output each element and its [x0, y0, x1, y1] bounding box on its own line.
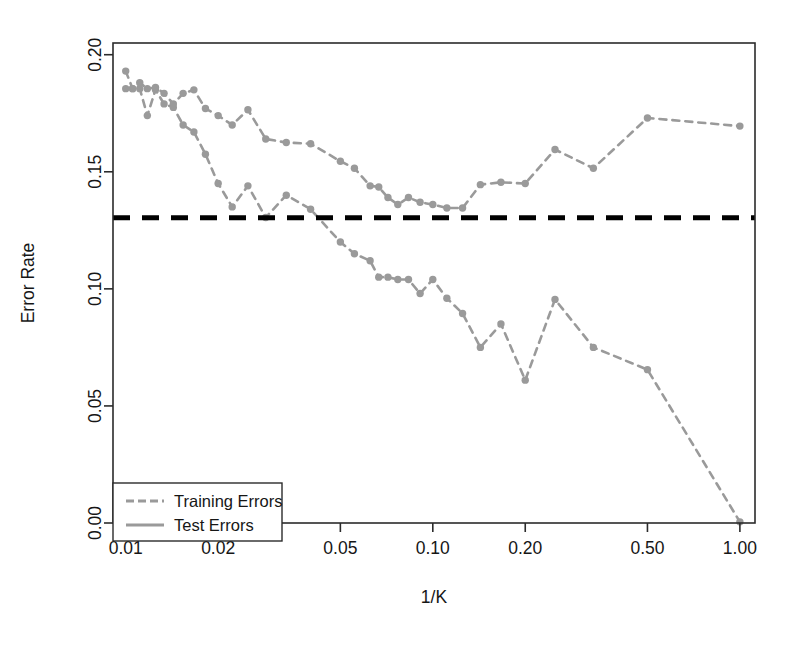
- y-tick-label: 0.10: [85, 272, 105, 306]
- data-point: [405, 194, 412, 201]
- data-point: [337, 238, 344, 245]
- data-point: [551, 296, 558, 303]
- data-point: [394, 276, 401, 283]
- data-point: [122, 85, 129, 92]
- data-point: [122, 67, 129, 74]
- data-point: [394, 201, 401, 208]
- data-point: [144, 85, 151, 92]
- data-point: [229, 203, 236, 210]
- data-point: [160, 100, 167, 107]
- data-point: [244, 106, 251, 113]
- data-point: [337, 158, 344, 165]
- data-point: [477, 181, 484, 188]
- chart-legend[interactable]: Training ErrorsTest Errors: [113, 483, 283, 541]
- data-point: [443, 204, 450, 211]
- data-point: [283, 192, 290, 199]
- data-point: [190, 86, 197, 93]
- data-point: [644, 366, 651, 373]
- data-point: [443, 295, 450, 302]
- data-point: [429, 276, 436, 283]
- data-point: [590, 165, 597, 172]
- data-point: [136, 79, 143, 86]
- data-point: [152, 84, 159, 91]
- data-point: [522, 376, 529, 383]
- data-point: [551, 146, 558, 153]
- x-axis-title: 1/K: [421, 587, 448, 607]
- data-point: [459, 204, 466, 211]
- data-point: [179, 90, 186, 97]
- data-point: [229, 121, 236, 128]
- data-point: [405, 276, 412, 283]
- knn-error-rate-figure: 0.010.020.050.100.200.501.00 0.000.050.1…: [0, 0, 798, 645]
- data-point: [459, 310, 466, 317]
- data-point: [375, 273, 382, 280]
- data-point: [244, 182, 251, 189]
- data-point: [129, 85, 136, 92]
- chart-canvas: 0.010.020.050.100.200.501.00 0.000.050.1…: [0, 0, 798, 645]
- x-tick-label: 0.20: [508, 538, 542, 558]
- legend-label-training-errors[interactable]: Training Errors: [174, 492, 283, 510]
- x-tick-label: 0.10: [416, 538, 450, 558]
- data-point: [202, 105, 209, 112]
- data-point: [522, 180, 529, 187]
- data-point: [202, 151, 209, 158]
- data-point: [416, 290, 423, 297]
- data-point: [429, 201, 436, 208]
- x-tick-label: 0.50: [630, 538, 664, 558]
- data-point: [384, 194, 391, 201]
- y-tick-label: 0.05: [85, 389, 105, 423]
- data-point: [214, 180, 221, 187]
- data-point: [307, 206, 314, 213]
- x-tick-label: 1.00: [723, 538, 757, 558]
- data-point: [179, 121, 186, 128]
- data-point: [644, 114, 651, 121]
- x-tick-label: 0.05: [323, 538, 357, 558]
- data-point: [736, 122, 743, 129]
- data-point: [307, 140, 314, 147]
- data-point: [214, 112, 221, 119]
- y-tick-label: 0.15: [85, 155, 105, 189]
- y-axis-title: Error Rate: [18, 243, 38, 324]
- data-point: [416, 199, 423, 206]
- data-point: [384, 273, 391, 280]
- data-point: [590, 344, 597, 351]
- data-point: [351, 165, 358, 172]
- data-point: [366, 182, 373, 189]
- data-point: [170, 100, 177, 107]
- legend-label-test-errors[interactable]: Test Errors: [174, 516, 254, 534]
- data-point: [477, 344, 484, 351]
- data-point: [262, 135, 269, 142]
- y-tick-label: 0.20: [85, 37, 105, 71]
- data-point: [375, 183, 382, 190]
- data-point: [351, 250, 358, 257]
- data-point: [160, 90, 167, 97]
- data-point: [190, 128, 197, 135]
- data-point: [497, 179, 504, 186]
- data-point: [283, 139, 290, 146]
- data-point: [144, 112, 151, 119]
- data-point: [497, 320, 504, 327]
- data-point: [366, 257, 373, 264]
- y-tick-label: 0.00: [85, 506, 105, 540]
